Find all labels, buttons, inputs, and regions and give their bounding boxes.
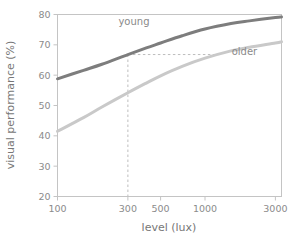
y-tick-label: 20 — [38, 191, 50, 202]
series-label-older: older — [232, 46, 258, 57]
series-label-young: young — [118, 16, 149, 27]
x-tick-label: 3000 — [263, 203, 287, 214]
x-tick-label: 100 — [48, 203, 66, 214]
x-axis-title: level (lux) — [142, 221, 197, 234]
y-tick-label: 40 — [38, 130, 50, 141]
x-tick-label: 300 — [119, 203, 137, 214]
x-tick-label: 1000 — [193, 203, 217, 214]
x-tick-label: 500 — [152, 203, 170, 214]
y-tick-label: 70 — [38, 39, 50, 50]
y-tick-label: 30 — [38, 161, 50, 172]
y-tick-label: 80 — [38, 9, 50, 20]
chart-figure: 20304050607080 10030050010003000 youngol… — [0, 0, 302, 242]
y-tick-label: 50 — [38, 100, 50, 111]
y-axis-title: visual performance (%) — [4, 41, 17, 170]
y-tick-label: 60 — [38, 70, 50, 81]
visual-performance-line-chart: 20304050607080 10030050010003000 youngol… — [0, 0, 302, 242]
